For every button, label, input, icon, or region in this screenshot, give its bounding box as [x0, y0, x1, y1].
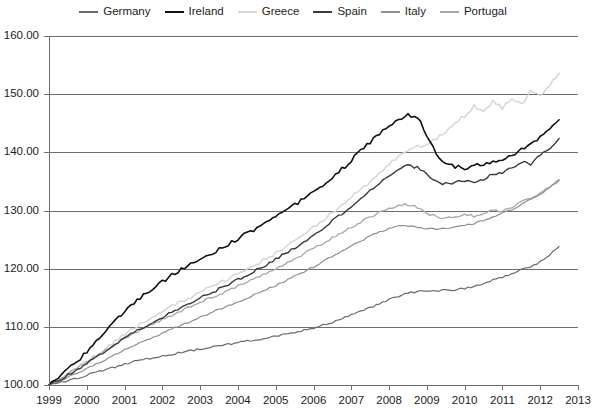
y-axis-label: 110.00: [0, 321, 39, 333]
x-axis-label: 2013: [558, 395, 595, 407]
y-axis-label: 130.00: [0, 205, 39, 217]
series-line-ireland: [49, 114, 559, 385]
y-axis-label: 140.00: [0, 146, 39, 158]
x-axis-label: 2012: [520, 395, 560, 407]
y-tick-140: [44, 152, 50, 153]
x-axis-label: 2006: [294, 395, 334, 407]
y-tick-130: [44, 211, 50, 212]
x-axis-label: 2002: [142, 395, 182, 407]
y-tick-160: [44, 36, 50, 37]
x-tick-1999: [49, 385, 50, 390]
legend-item-italy: Italy: [381, 6, 426, 18]
x-tick-2013: [578, 385, 579, 390]
legend-item-spain: Spain: [313, 6, 366, 18]
y-tick-150: [44, 94, 50, 95]
legend-swatch-ireland: [165, 11, 184, 13]
x-tick-2000: [87, 385, 88, 390]
legend-swatch-greece: [238, 11, 257, 13]
x-axis-label: 2005: [256, 395, 296, 407]
chart-legend: GermanyIrelandGreeceSpainItalyPortugal: [0, 0, 586, 24]
x-tick-2006: [314, 385, 315, 390]
x-axis-label: 2010: [445, 395, 485, 407]
x-tick-2011: [502, 385, 503, 390]
legend-swatch-germany: [79, 11, 98, 13]
y-axis-label: 160.00: [0, 30, 39, 42]
legend-swatch-spain: [313, 11, 332, 13]
x-axis-label: 1999: [29, 395, 69, 407]
legend-label: Portugal: [464, 6, 507, 18]
legend-label: Greece: [262, 6, 300, 18]
legend-item-ireland: Ireland: [165, 6, 224, 18]
y-tick-110: [44, 327, 50, 328]
legend-item-portugal: Portugal: [440, 6, 507, 18]
legend-label: Ireland: [189, 6, 224, 18]
legend-item-germany: Germany: [79, 6, 150, 18]
legend-swatch-portugal: [440, 11, 459, 13]
x-axis-label: 2007: [331, 395, 371, 407]
series-lines: [49, 36, 578, 385]
y-axis-label: 150.00: [0, 88, 39, 100]
x-tick-2009: [427, 385, 428, 390]
y-axis-label: 120.00: [0, 263, 39, 275]
series-line-germany: [49, 247, 559, 385]
x-axis-label: 2004: [218, 395, 258, 407]
x-tick-2004: [238, 385, 239, 390]
x-tick-2005: [276, 385, 277, 390]
x-axis-label: 2001: [105, 395, 145, 407]
legend-label: Spain: [337, 6, 366, 18]
series-line-spain: [49, 138, 559, 385]
legend-item-greece: Greece: [238, 6, 300, 18]
x-axis-label: 2003: [180, 395, 220, 407]
legend-swatch-italy: [381, 11, 400, 13]
x-axis-label: 2008: [369, 395, 409, 407]
x-axis-label: 2009: [407, 395, 447, 407]
x-tick-2008: [389, 385, 390, 390]
x-tick-2007: [351, 385, 352, 390]
y-tick-120: [44, 269, 50, 270]
series-line-italy: [49, 180, 559, 385]
series-line-portugal: [49, 180, 559, 385]
legend-label: Germany: [103, 6, 150, 18]
x-axis-label: 2000: [67, 395, 107, 407]
x-tick-2001: [125, 385, 126, 390]
x-tick-2012: [540, 385, 541, 390]
x-tick-2010: [465, 385, 466, 390]
x-tick-2002: [162, 385, 163, 390]
y-axis-label: 100.00: [0, 379, 39, 391]
x-axis-label: 2011: [482, 395, 522, 407]
legend-label: Italy: [405, 6, 426, 18]
plot-area: [49, 36, 578, 385]
x-tick-2003: [200, 385, 201, 390]
